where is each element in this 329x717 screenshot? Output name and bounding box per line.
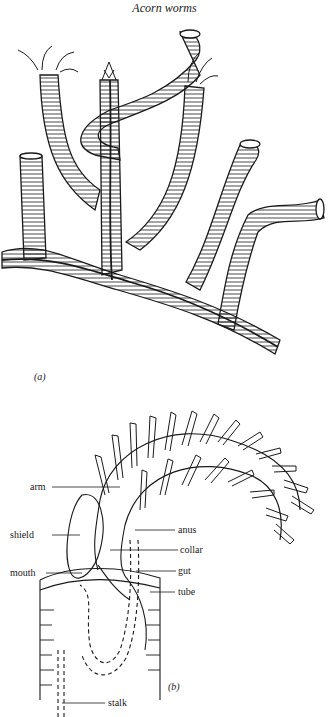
label-stalk: stalk	[108, 698, 127, 708]
label-shield: shield	[10, 530, 34, 540]
figure-b-illustration	[0, 400, 329, 717]
label-mouth: mouth	[10, 568, 36, 578]
figure-a-illustration	[0, 20, 329, 360]
figure-b-label: (b)	[168, 682, 180, 692]
label-arm: arm	[30, 482, 46, 492]
label-anus: anus	[178, 525, 196, 535]
figure-a-label: (a)	[34, 372, 46, 382]
label-collar: collar	[180, 545, 203, 555]
label-tube: tube	[178, 587, 195, 597]
label-gut: gut	[178, 566, 191, 576]
figure-title: Acorn worms	[0, 1, 329, 16]
